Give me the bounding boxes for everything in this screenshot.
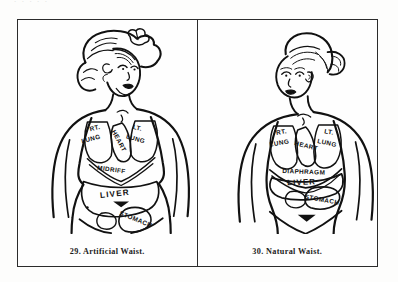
figure-artificial-waist: RT. LUNG HEART LT. LUNG MIDRIFF LIVER ST…: [18, 22, 197, 234]
organ-label-rt-lung: RT.: [275, 127, 287, 136]
organ-label-diaphragm: DIAPHRAGM: [282, 167, 325, 175]
page-top-bleed-text: . . . . .: [14, 0, 374, 4]
panel-artificial-waist: RT. LUNG HEART LT. LUNG MIDRIFF LIVER ST…: [18, 20, 198, 266]
organ-label-liver: LIVER: [286, 177, 315, 187]
illustration-plate: RT. LUNG HEART LT. LUNG MIDRIFF LIVER ST…: [17, 19, 378, 267]
natural-waist-drawing: RT. LUNG HEART LT. LUNG DIAPHRAGM LIVER …: [198, 22, 378, 234]
organ-label-lt-lung-2: LUNG: [125, 132, 146, 144]
caption-artificial-waist: 29. Artificial Waist.: [18, 247, 197, 256]
artificial-waist-drawing: RT. LUNG HEART LT. LUNG MIDRIFF LIVER ST…: [18, 22, 197, 234]
organ-label-rt-lung-2: LUNG: [80, 133, 101, 145]
organ-label-lt-lung: LT.: [323, 127, 334, 136]
organ-label-liver: LIVER: [100, 188, 131, 200]
organ-label-midriff: MIDRIFF: [97, 164, 126, 175]
page-top-bleed: . . . . .: [0, 0, 398, 12]
organ-label-lt-lung: LT.: [132, 123, 143, 132]
figure-natural-waist: RT. LUNG HEART LT. LUNG DIAPHRAGM LIVER …: [198, 22, 378, 234]
panel-natural-waist: RT. LUNG HEART LT. LUNG DIAPHRAGM LIVER …: [198, 20, 378, 266]
organ-label-rt-lung: RT.: [89, 123, 101, 132]
organ-label-lt-lung-2: LUNG: [316, 137, 337, 148]
caption-natural-waist: 30. Natural Waist.: [198, 247, 378, 256]
